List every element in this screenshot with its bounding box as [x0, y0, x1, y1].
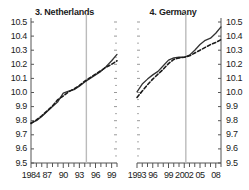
y-tick-label: 9.9 [0, 102, 27, 111]
y-tick-label: 10.5 [0, 18, 27, 27]
y-tick-label: 9.6 [226, 144, 249, 153]
y-tick-label: 10.4 [0, 32, 27, 41]
y-tick-label: 10.3 [226, 46, 249, 55]
y-tick-label: 9.7 [226, 130, 249, 139]
panel-netherlands: 3. Netherlands 9.59.69.79.89.910.010.110… [0, 0, 125, 190]
x-tick-label: 99 [99, 171, 125, 180]
y-tick-label: 10.0 [226, 88, 249, 97]
y-tick-label: 9.5 [0, 159, 27, 168]
series-line-dashed [137, 40, 221, 98]
y-tick-label: 10.5 [226, 18, 249, 27]
y-tick-label: 10.3 [0, 46, 27, 55]
y-tick-label: 9.8 [0, 116, 27, 125]
y-tick-label: 9.7 [0, 130, 27, 139]
y-tick-label: 10.0 [0, 88, 27, 97]
figure-two-panel-line-charts: 3. Netherlands 9.59.69.79.89.910.010.110… [0, 0, 249, 190]
y-tick-label: 9.8 [226, 116, 249, 125]
y-tick-label: 9.5 [226, 159, 249, 168]
y-tick-label: 9.9 [226, 102, 249, 111]
y-tick-label: 10.2 [0, 60, 27, 69]
x-tick-label: 08 [203, 171, 229, 180]
y-tick-label: 9.6 [0, 144, 27, 153]
y-tick-label: 10.2 [226, 60, 249, 69]
y-tick-label: 10.1 [226, 74, 249, 83]
y-tick-label: 10.1 [0, 74, 27, 83]
y-tick-label: 10.4 [226, 32, 249, 41]
panel-germany: 4. Germany 9.59.69.79.89.910.010.110.210… [125, 0, 249, 190]
